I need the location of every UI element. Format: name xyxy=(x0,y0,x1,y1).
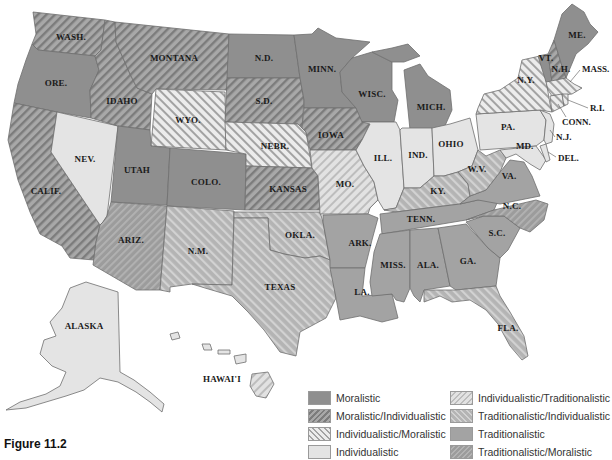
label-va: VA. xyxy=(502,171,517,181)
legend-item-individualistic-moralistic: Individualistic/Moralistic xyxy=(308,426,446,442)
swatch-individualistic xyxy=(308,445,331,459)
legend-item-traditionalistic: Traditionalistic xyxy=(450,426,545,442)
label-wyo: WYO. xyxy=(175,115,201,125)
state-hawaii-oahu xyxy=(202,344,212,350)
label-minn: MINN. xyxy=(308,64,336,74)
label-ore: ORE. xyxy=(45,78,68,88)
label-okla: OKLA. xyxy=(285,230,315,240)
label-ill: ILL. xyxy=(374,153,393,163)
label-utah: UTAH xyxy=(124,165,150,175)
label-nd: N.D. xyxy=(255,53,273,63)
label-texas: TEXAS xyxy=(264,282,295,292)
swatch-individualistic-traditionalistic xyxy=(450,391,473,405)
state-mass xyxy=(546,78,582,96)
label-nh: N.H. xyxy=(552,64,571,74)
legend-item-moralistic-individualistic: Moralistic/Individualistic xyxy=(308,408,446,424)
label-wisc: WISC. xyxy=(358,89,385,99)
label-montana: MONTANA xyxy=(150,53,199,63)
label-mass: MASS. xyxy=(582,64,609,74)
label-alaska: ALASKA xyxy=(65,321,104,331)
legend-item-traditionalistic-moralistic: Traditionalistic/Moralistic xyxy=(450,444,592,460)
label-hawaii: HAWAI'I xyxy=(203,374,241,384)
legend-label: Individualistic/Traditionalistic xyxy=(478,392,610,404)
leader-mass xyxy=(570,70,580,82)
legend-label: Individualistic/Moralistic xyxy=(336,428,446,440)
state-hawaii-kauai xyxy=(170,332,180,340)
state-mich xyxy=(404,64,452,130)
label-fla: FLA. xyxy=(497,323,518,333)
label-nebr: NEBR. xyxy=(261,141,289,151)
swatch-individualistic-moralistic xyxy=(308,427,331,441)
label-ri: R.I. xyxy=(590,103,605,113)
label-conn: CONN. xyxy=(562,117,591,127)
label-iowa: IOWA xyxy=(318,130,344,140)
legend-label: Traditionalistic/Individualistic xyxy=(478,410,610,422)
label-kansas: KANSAS xyxy=(269,184,307,194)
label-ala: ALA. xyxy=(417,260,439,270)
swatch-moralistic-individualistic xyxy=(308,409,331,423)
state-hawaii-big-island xyxy=(250,372,274,398)
label-colo: COLO. xyxy=(191,177,221,187)
swatch-moralistic xyxy=(308,391,331,405)
legend-label: Moralistic xyxy=(336,392,380,404)
state-hawaii-molokai xyxy=(218,350,230,354)
state-hawaii-maui xyxy=(234,354,246,364)
label-nm: N.M. xyxy=(188,246,208,256)
label-mich: MICH. xyxy=(417,102,446,112)
label-idaho: IDAHO xyxy=(106,96,138,106)
label-ny: N.Y. xyxy=(517,75,534,85)
label-vt: VT. xyxy=(539,53,554,63)
label-md: MD. xyxy=(516,141,533,151)
legend-label: Individualistic xyxy=(336,446,398,458)
label-nc: N.C. xyxy=(503,201,521,211)
label-ark: ARK. xyxy=(348,238,371,248)
label-nj: N.J. xyxy=(556,132,572,142)
legend-label: Traditionalistic/Moralistic xyxy=(478,446,592,458)
label-ky: KY. xyxy=(430,186,446,196)
legend-label: Moralistic/Individualistic xyxy=(336,410,446,422)
label-ariz: ARIZ. xyxy=(118,235,144,245)
legend-label: Traditionalistic xyxy=(478,428,545,440)
label-ohio: OHIO xyxy=(438,139,463,149)
label-tenn: TENN. xyxy=(407,214,435,224)
label-la: LA. xyxy=(354,287,369,297)
label-sd: S.D. xyxy=(256,96,273,106)
label-nev: NEV. xyxy=(75,154,96,164)
swatch-traditionalistic-moralistic xyxy=(450,445,473,459)
label-me: ME. xyxy=(568,30,585,40)
swatch-traditionalistic-individualistic xyxy=(450,409,473,423)
legend-item-individualistic-traditionalistic: Individualistic/Traditionalistic xyxy=(450,390,610,406)
label-calif: CALIF. xyxy=(31,186,62,196)
legend: Moralistic Moralistic/Individualistic In… xyxy=(308,390,612,458)
legend-item-individualistic: Individualistic xyxy=(308,444,398,460)
label-wash: WASH. xyxy=(56,32,86,42)
label-ga: GA. xyxy=(460,256,476,266)
label-pa: PA. xyxy=(501,122,515,132)
label-wv: W.V. xyxy=(468,164,487,174)
label-miss: MISS. xyxy=(380,260,405,270)
swatch-traditionalistic xyxy=(450,427,473,441)
label-ind: IND. xyxy=(408,150,428,160)
label-mo: MO. xyxy=(336,179,354,189)
legend-item-moralistic: Moralistic xyxy=(308,390,380,406)
label-del: DEL. xyxy=(558,153,579,163)
state-alaska xyxy=(6,282,164,412)
leader-ri xyxy=(568,100,588,108)
legend-item-traditionalistic-individualistic: Traditionalistic/Individualistic xyxy=(450,408,610,424)
figure-caption: Figure 11.2 xyxy=(4,437,67,451)
label-sc: S.C. xyxy=(489,228,506,238)
state-conn xyxy=(550,94,564,112)
